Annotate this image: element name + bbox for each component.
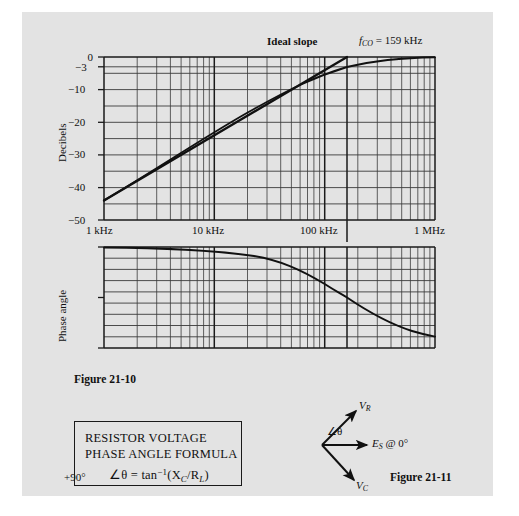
cutoff-f-subscript: CO	[362, 39, 373, 48]
textbook-page: 0 −3 −10 −20 −30 −40 −50 Decibels 1 kHz …	[22, 12, 493, 496]
y-tick-marks	[98, 247, 104, 348]
ytick-m20: −20	[68, 117, 85, 128]
ytick-m40: −40	[68, 182, 85, 193]
ideal-slope-annotation: Ideal slope	[267, 36, 317, 47]
xtick-10khz: 10 kHz	[192, 225, 224, 236]
vr-symbol: V	[359, 399, 366, 411]
grid-minor-vertical	[137, 247, 430, 348]
y-tick-marks	[98, 57, 104, 220]
formula-equals: =	[131, 468, 138, 482]
cutoff-frequency-annotation: fCO = 159 kHz	[359, 35, 422, 48]
bode-phase-plot: +90° +45° 0° Phase angle	[22, 242, 493, 362]
vr-label: VR	[359, 400, 371, 413]
phase-axis-title: Phase angle	[56, 290, 68, 342]
xtick-1khz: 1 kHz	[86, 225, 113, 236]
formula-arg-close: )	[205, 468, 209, 482]
formula-exponent: −1	[157, 467, 167, 477]
figure-caption-21-10: Figure 21-10	[74, 374, 136, 386]
es-symbol: E	[372, 437, 379, 449]
formula-arg-slash: /R	[187, 468, 199, 482]
vc-symbol: V	[356, 479, 363, 491]
ytick-m10: −10	[68, 84, 85, 95]
formula-lhs: ∠θ	[109, 468, 127, 482]
plot-frame	[104, 247, 435, 348]
ytick-m50: −50	[68, 215, 85, 226]
formula-title-line1: RESISTOR VOLTAGE	[85, 431, 207, 446]
formula-title-line2: PHASE ANGLE FORMULA	[85, 447, 237, 462]
es-label: ES @ 0°	[372, 438, 408, 451]
vc-vector	[322, 445, 354, 480]
cutoff-f-value: = 159 kHz	[373, 34, 422, 46]
grid-horizontal	[104, 258, 435, 337]
vr-subscript: R	[366, 404, 371, 413]
vc-label: VC	[356, 480, 368, 493]
ytick-m3: −3	[75, 62, 87, 73]
formula-arg-open: (X	[167, 468, 181, 482]
es-rest: @ 0°	[383, 437, 409, 449]
xtick-100khz: 100 kHz	[300, 225, 338, 236]
figure-caption-21-11: Figure 21-11	[390, 472, 451, 484]
bode-magnitude-svg	[22, 12, 493, 242]
grid-major-vertical	[104, 247, 435, 348]
screenshot-root: 0 −3 −10 −20 −30 −40 −50 Decibels 1 kHz …	[0, 0, 519, 516]
grid-horizontal	[104, 67, 435, 204]
formula-tan: tan	[141, 468, 157, 482]
ytick-m30: −30	[68, 149, 85, 160]
formula-box: RESISTOR VOLTAGE PHASE ANGLE FORMULA ∠θ …	[74, 421, 242, 486]
xtick-1mhz: 1 MHz	[414, 225, 445, 236]
formula-expression: ∠θ = tan−1(XC/RL)	[75, 467, 243, 484]
magnitude-axis-title: Decibels	[56, 124, 68, 162]
phasor-angle-label: ∠θ	[327, 426, 342, 437]
ytick-0: 0	[88, 52, 94, 63]
vc-subscript: C	[363, 484, 368, 493]
bode-phase-svg	[22, 242, 493, 362]
bode-magnitude-plot: 0 −3 −10 −20 −30 −40 −50 Decibels 1 kHz …	[22, 12, 493, 242]
magnitude-response-curve	[104, 57, 435, 200]
